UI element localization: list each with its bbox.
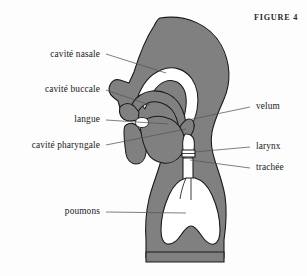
label-cavite-buccale: cavité buccale [45,85,100,94]
label-larynx: larynx [256,142,281,151]
label-velum: velum [256,102,280,111]
figure-container: FIGURE 4 cavité nasale cavité buccale la… [0,0,307,276]
figure-caption: FIGURE 4 [254,13,298,22]
anatomy-diagram [0,0,307,276]
larynx-ring [182,150,195,157]
label-poumons: poumons [65,207,100,216]
label-cavite-nasale: cavité nasale [50,50,100,59]
anatomy-tissue-group [109,17,229,262]
diaphragm-base [146,252,224,262]
label-trachee: trachée [256,163,284,172]
label-cavite-pharyngale: cavité pharyngale [32,141,100,150]
label-langue: langue [74,115,100,124]
